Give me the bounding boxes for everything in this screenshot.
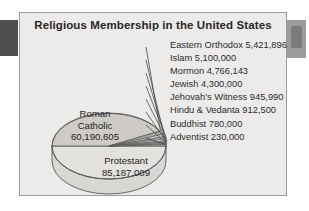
- callout-mormon: Mormon 4,766,143: [170, 65, 309, 78]
- scanned-page: Religious Membership in the United State…: [0, 0, 309, 211]
- callout-label-list: Eastern Orthodox 5,421,896 Islam 5,100,0…: [170, 39, 309, 144]
- chart-panel: Religious Membership in the United State…: [19, 12, 287, 196]
- callout-islam: Islam 5,100,000: [170, 52, 309, 65]
- callout-adventist: Adventist 230,000: [170, 131, 309, 144]
- callout-buddhist: Buddhist 780,000: [170, 118, 309, 131]
- leader-line-jewish: [146, 86, 167, 139]
- leader-line-hindu-vedanta: [146, 112, 167, 142]
- callout-hindu-vedanta: Hindu & Vedanta 912,500: [170, 104, 309, 117]
- leader-line-adventist: [146, 138, 167, 145]
- callout-eastern-orthodox: Eastern Orthodox 5,421,896: [170, 39, 309, 52]
- callout-jewish: Jewish 4,300,000: [170, 78, 309, 91]
- callout-jehovahs-witness: Jehovah's Witness 945,990: [170, 91, 309, 104]
- scan-artifact-left: [0, 20, 18, 56]
